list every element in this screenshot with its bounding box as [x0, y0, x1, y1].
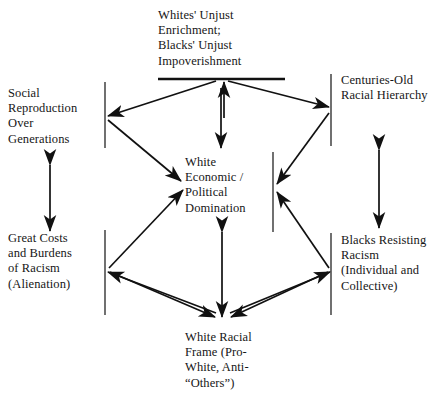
arrow-bottom-to-lower-right	[230, 272, 330, 313]
node-label-centuries-old-racial-hierarchy: Centuries-Old Racial Hierarchy	[341, 73, 445, 103]
arrow-upper-right-to-center	[277, 113, 329, 184]
node-label-blacks-resisting-racism: Blacks Resisting Racism (Individual and …	[341, 233, 445, 294]
systemic-racism-diagram: Whites' Unjust Enrichment; Blacks' Unjus…	[0, 0, 445, 404]
node-label-white-racial-frame: White Racial Frame (Pro- White, Anti- “O…	[185, 330, 295, 391]
node-label-social-reproduction: Social Reproduction Over Generations	[8, 86, 104, 147]
node-label-white-economic-political-domination: White Economic / Political Domination	[185, 155, 281, 216]
arrow-top-to-upper-right	[228, 81, 329, 107]
arrow-top-to-upper-left	[108, 81, 216, 116]
arrow-lower-left-to-center	[109, 190, 183, 268]
node-label-great-costs-burdens-racism: Great Costs and Burdens of Racism (Alien…	[8, 231, 108, 292]
node-label-whites-unjust-enrichment: Whites' Unjust Enrichment; Blacks' Unjus…	[158, 8, 298, 69]
arrow-upper-left-to-center	[108, 120, 181, 181]
arrow-bottom-to-lower-left	[108, 272, 216, 313]
arrow-lower-right-to-center	[277, 192, 329, 268]
